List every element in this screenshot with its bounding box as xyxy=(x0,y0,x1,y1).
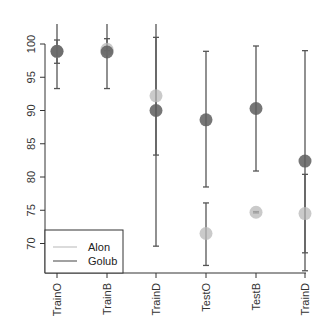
y-tick-label: 100 xyxy=(25,35,37,53)
y-tick-label: 75 xyxy=(25,204,37,216)
error-bar-chart: 707580859095100 TrainOTrainBTrainDTestOT… xyxy=(0,0,328,333)
x-tick-label: TestB xyxy=(250,283,262,311)
y-axis: 707580859095100 xyxy=(25,35,45,273)
y-tick-label: 80 xyxy=(25,171,37,183)
golub-error-bars xyxy=(54,24,308,253)
legend-label: Alon xyxy=(88,241,110,253)
y-tick-label: 90 xyxy=(25,104,37,116)
data-point xyxy=(250,102,263,115)
data-point xyxy=(200,227,213,240)
data-point xyxy=(299,155,312,168)
data-point xyxy=(299,207,312,220)
legend: AlonGolub xyxy=(45,230,123,273)
x-tick-label: TestO xyxy=(200,283,212,312)
x-tick-label: TrainO xyxy=(51,283,63,317)
x-axis: TrainOTrainBTrainDTestOTestBTrainD xyxy=(45,273,311,316)
y-tick-label: 70 xyxy=(25,237,37,249)
y-tick-label: 85 xyxy=(25,138,37,150)
data-point xyxy=(250,206,263,219)
x-tick-label: TrainD xyxy=(150,283,162,316)
y-tick-label: 95 xyxy=(25,71,37,83)
golub-points xyxy=(51,45,312,168)
legend-label: Golub xyxy=(88,255,117,267)
x-tick-label: TrainD xyxy=(299,283,311,316)
alon-points xyxy=(51,43,312,240)
data-point xyxy=(101,45,114,58)
data-point xyxy=(150,89,163,102)
data-point xyxy=(200,113,213,126)
data-point xyxy=(150,104,163,117)
data-point xyxy=(51,45,64,58)
x-tick-label: TrainB xyxy=(101,283,113,315)
